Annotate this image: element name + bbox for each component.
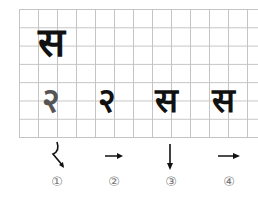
right-arrow-icon [217, 152, 241, 160]
stroke-step-2: २ [98, 83, 116, 117]
step-number-3: ③ [161, 174, 181, 189]
stroke-step-1: २ [42, 83, 60, 117]
curve-arrow-icon [45, 140, 69, 172]
main-letter: स [38, 22, 65, 62]
stroke-step-4: स [212, 83, 235, 117]
stroke-step-3: स [155, 83, 178, 117]
step-number-2: ② [104, 174, 124, 189]
step-number-1: ① [47, 174, 67, 189]
right-arrow-icon [104, 152, 124, 160]
down-arrow-icon [166, 143, 174, 171]
step-number-4: ④ [219, 174, 239, 189]
